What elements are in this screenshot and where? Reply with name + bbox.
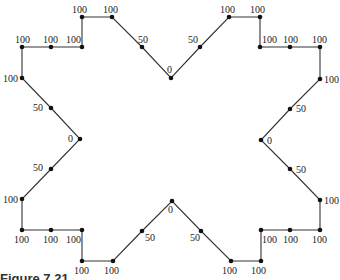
vertex-label: 50 <box>33 102 43 113</box>
vertex-labels: 1001005005010010010010010010050050100100… <box>3 4 339 276</box>
vertex-label: 100 <box>3 194 18 205</box>
vertex-label: 50 <box>296 103 306 114</box>
figure-caption: Figure 7.21 <box>0 268 69 280</box>
vertex-label: 100 <box>324 195 339 206</box>
vertex-label: 100 <box>66 34 81 45</box>
vertex-label: 100 <box>251 265 266 276</box>
vertex-point <box>198 45 203 50</box>
vertex-point <box>318 228 323 233</box>
vertex-label: 50 <box>138 34 148 45</box>
vertex-point <box>258 15 263 20</box>
vertex-point <box>227 15 232 20</box>
vertex-point <box>49 106 54 111</box>
vertex-label: 100 <box>262 34 277 45</box>
vertex-point <box>229 259 234 264</box>
vertex-label: 100 <box>14 234 29 245</box>
vertex-point <box>259 228 264 233</box>
vertex-point <box>170 199 175 204</box>
vertex-point <box>20 76 25 81</box>
vertex-label: 100 <box>66 234 81 245</box>
vertex-label: 50 <box>296 164 306 175</box>
vertex-label: 0 <box>167 64 172 75</box>
vertex-point <box>80 259 85 264</box>
vertex-point <box>288 45 293 50</box>
vertex-label: 100 <box>15 34 30 45</box>
vertex-point <box>20 45 25 50</box>
vertex-label: 0 <box>168 204 173 215</box>
vertex-label: 100 <box>312 34 327 45</box>
vertex-label: 100 <box>43 234 58 245</box>
vertex-point <box>20 228 25 233</box>
vertex-label: 100 <box>220 4 235 15</box>
vertex-label: 100 <box>104 265 119 276</box>
vertex-label: 100 <box>103 4 118 15</box>
vertex-label: 0 <box>68 133 73 144</box>
vertex-point <box>140 229 145 234</box>
weighted-polygon-diagram: 1001005005010010010010010010050050100100… <box>0 0 340 280</box>
vertex-label: 50 <box>188 34 198 45</box>
vertex-label: 100 <box>262 234 277 245</box>
vertex-point <box>80 228 85 233</box>
vertex-point <box>169 76 174 81</box>
vertex-label: 100 <box>312 234 327 245</box>
vertex-label: 50 <box>190 232 200 243</box>
vertex-label: 100 <box>324 74 339 85</box>
vertex-point <box>78 137 83 142</box>
vertex-point <box>259 259 264 264</box>
vertex-point <box>110 15 115 20</box>
vertex-point <box>259 138 264 143</box>
vertex-label: 100 <box>283 34 298 45</box>
vertex-point <box>318 198 323 203</box>
vertex-label: 50 <box>145 232 155 243</box>
vertex-point <box>80 45 85 50</box>
vertex-point <box>140 45 145 50</box>
vertex-point <box>258 45 263 50</box>
vertex-point <box>49 228 54 233</box>
vertex-point <box>49 45 54 50</box>
vertex-label: 100 <box>250 4 265 15</box>
vertex-label: 100 <box>3 73 18 84</box>
vertex-point <box>111 259 116 264</box>
vertex-label: 100 <box>222 265 237 276</box>
vertex-points <box>20 15 323 264</box>
vertex-point <box>288 167 293 172</box>
vertex-point <box>288 228 293 233</box>
vertex-label: 50 <box>33 162 43 173</box>
vertex-point <box>288 107 293 112</box>
vertex-point <box>80 15 85 20</box>
vertex-label: 100 <box>72 4 87 15</box>
vertex-label: 100 <box>283 234 298 245</box>
vertex-point <box>20 197 25 202</box>
vertex-label: 100 <box>43 34 58 45</box>
vertex-point <box>49 167 54 172</box>
vertex-point <box>318 77 323 82</box>
vertex-point <box>318 45 323 50</box>
vertex-label: 100 <box>74 265 89 276</box>
polygon-outline <box>22 17 320 261</box>
vertex-label: 0 <box>267 135 272 146</box>
